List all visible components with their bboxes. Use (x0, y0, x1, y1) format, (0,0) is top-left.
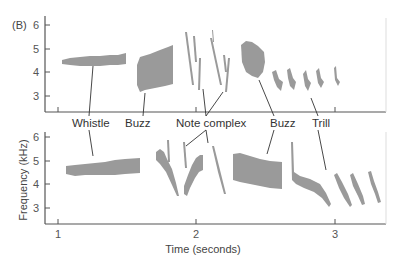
top-note-complex-signal (185, 30, 230, 92)
bottom-panel: 6 5 4 3 1 2 3 Time (seconds) (33, 131, 386, 255)
x-tick-2: 2 (193, 228, 199, 240)
bottom-buzz-signal (233, 153, 282, 189)
bottom-y-tick-3: 3 (33, 202, 39, 214)
y-axis-title: Frequency (kHz) (17, 139, 29, 220)
top-y-tick-4: 4 (33, 66, 39, 78)
label-buzz-1: Buzz (125, 117, 151, 129)
x-axis-title: Time (seconds) (165, 243, 240, 255)
top-y-tick-5: 5 (33, 43, 39, 55)
bottom-y-tick-6: 6 (33, 131, 39, 143)
bottom-trill-signal (291, 142, 381, 207)
x-tick-3: 3 (332, 228, 338, 240)
panel-tag: (B) (12, 19, 27, 31)
label-trill: Trill (312, 117, 330, 129)
top-y-tick-3: 3 (33, 90, 39, 102)
label-whistle: Whistle (72, 117, 110, 129)
label-buzz-2: Buzz (270, 117, 296, 129)
top-trill-signal (272, 66, 340, 91)
bottom-y-tick-5: 5 (33, 155, 39, 167)
top-y-tick-6: 6 (33, 19, 39, 31)
spectrogram-figure: (B) Frequency (kHz) 6 5 4 3 (0, 0, 401, 264)
top-whistle-signal (62, 53, 126, 66)
bottom-y-tick-4: 4 (33, 178, 39, 190)
top-panel: 6 5 4 3 (33, 16, 386, 112)
top-buzz-signal (137, 45, 173, 92)
top-buzz2-signal (241, 41, 265, 78)
bottom-whistle-signal (66, 158, 140, 176)
x-tick-1: 1 (55, 228, 61, 240)
bottom-note-complex-signal (156, 140, 226, 196)
label-note-complex: Note complex (176, 117, 247, 129)
